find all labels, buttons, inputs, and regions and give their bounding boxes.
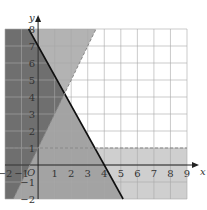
y-tick-label: 4: [29, 92, 35, 103]
x-tick-label: 8: [167, 168, 173, 179]
y-axis-label: y: [28, 12, 35, 23]
origin-label: O: [27, 167, 35, 178]
x-tick-label: 1: [51, 168, 57, 179]
x-tick-label: 6: [134, 168, 140, 179]
x-tick-label: 3: [85, 168, 91, 179]
y-tick-label: 8: [29, 24, 35, 35]
y-tick-label: 5: [29, 75, 35, 86]
y-tick-label: 3: [29, 109, 35, 120]
y-tick-label: 1: [29, 143, 35, 154]
y-tick-label: 7: [29, 41, 35, 52]
x-axis-label: x: [200, 166, 206, 177]
y-tick-label: 2: [29, 126, 35, 137]
x-tick-label: 5: [118, 168, 124, 179]
y-tick-label: −2: [20, 194, 35, 205]
x-tick-label: 7: [151, 168, 157, 179]
y-tick-label: 6: [29, 58, 35, 69]
y-tick-label: −1: [20, 177, 35, 188]
inequality-graph: −2−1123456789−2−112345678Oxy: [0, 0, 207, 210]
x-tick-label: 2: [68, 168, 74, 179]
x-axis-arrow-icon: [192, 162, 199, 168]
y-axis-arrow-icon: [35, 15, 41, 22]
x-tick-label: 9: [184, 168, 190, 179]
x-tick-label: −2: [0, 168, 12, 179]
x-tick-label: 4: [101, 168, 107, 179]
